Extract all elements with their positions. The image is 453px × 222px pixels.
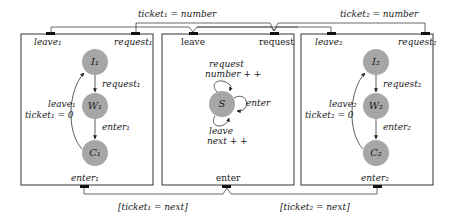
transition-label-request: request — [209, 59, 244, 69]
port-label-enter2: enter₂ — [361, 173, 389, 183]
state-label-c2: C₂ — [370, 147, 382, 158]
component-server: leave request enter S request number + +… — [162, 32, 294, 188]
top-left-wire-label: ticket₁ = number — [138, 9, 217, 19]
port-label-request1: request₁ — [114, 37, 152, 47]
state-label-i2: I₂ — [371, 56, 380, 67]
port-enter1[interactable] — [80, 185, 89, 188]
state-label-w1: W₁ — [88, 100, 102, 111]
port-request1[interactable] — [131, 32, 140, 35]
port-enter2[interactable] — [373, 185, 382, 188]
transition-label-leave2: leave₂ — [329, 99, 357, 109]
transition-label-enter1: enter₁ — [102, 122, 130, 132]
port-leave2[interactable] — [327, 32, 336, 35]
bottom-connectors — [84, 187, 377, 194]
top-connectors — [51, 23, 425, 33]
connector-enter1-enter — [84, 187, 377, 194]
ticket-protocol-diagram: ticket₁ = number ticket₂ = number [ticke… — [0, 0, 453, 222]
port-label-enter1: enter₁ — [71, 173, 99, 183]
transition-label-ticket2-reset: ticket₂ = 0 — [305, 110, 354, 120]
port-enter[interactable] — [222, 185, 231, 188]
top-right-wire-label: ticket₂ = number — [340, 9, 419, 19]
port-label-enter: enter — [216, 173, 241, 183]
port-leave1[interactable] — [46, 32, 55, 35]
bottom-right-wire-label: [ticket₂ = next] — [280, 202, 350, 212]
transition-label-request1: request₁ — [102, 79, 140, 89]
state-label-w2: W₂ — [369, 100, 383, 111]
transition-label-leave: leave — [209, 126, 233, 136]
transition-label-leave1: leave₁ — [48, 99, 76, 109]
port-label-leave: leave — [181, 37, 205, 47]
port-label-request2: request₂ — [398, 37, 437, 47]
transition-label-next-inc: next + + — [207, 136, 248, 146]
port-leave[interactable] — [189, 32, 198, 35]
connector-leave2-leave — [298, 27, 331, 33]
transition-label-number-inc: number + + — [205, 69, 261, 79]
component-process-1: leave₁ request₁ enter₁ I₁ W₁ C₁ request₁… — [21, 32, 153, 188]
port-label-leave2: leave₂ — [315, 37, 343, 47]
port-request[interactable] — [270, 32, 279, 35]
connector-request1-request — [136, 23, 425, 33]
connector-leave1-leave — [51, 27, 298, 33]
component-process-2: leave₂ request₂ enter₂ I₂ W₂ C₂ request₂… — [301, 32, 437, 188]
transition-label-enter2: enter₂ — [383, 122, 411, 132]
transition-label-ticket1-reset: ticket₁ = 0 — [25, 110, 74, 120]
port-label-request: request — [259, 37, 294, 47]
transition-label-enter: enter — [246, 98, 271, 108]
state-label-s: S — [219, 98, 226, 109]
transition-label-request2: request₂ — [383, 79, 422, 89]
port-label-leave1: leave₁ — [34, 37, 62, 47]
connector-leave-request-join — [197, 27, 298, 31]
port-request2[interactable] — [421, 32, 430, 35]
state-label-c1: C₁ — [89, 147, 101, 158]
state-label-i1: I₁ — [90, 56, 99, 67]
bottom-left-wire-label: [ticket₁ = next] — [118, 202, 188, 212]
